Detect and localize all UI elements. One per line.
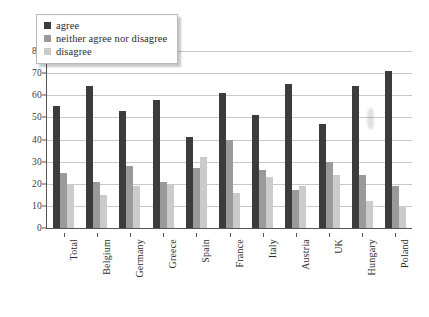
bar-group: [47, 51, 80, 228]
x-axis-tick-mark: [196, 233, 197, 237]
y-axis-tick-label: 50: [32, 112, 42, 122]
bar: [186, 137, 193, 228]
bar-group: [279, 51, 312, 228]
legend-item: neither agree nor disagree: [44, 32, 167, 45]
bar: [226, 140, 233, 229]
plot-area: [47, 51, 412, 228]
x-axis-label: Total: [68, 239, 79, 260]
bar: [53, 106, 60, 228]
bar: [67, 184, 74, 228]
bar: [126, 166, 133, 228]
y-axis-tick-label: 40: [32, 135, 42, 145]
bar: [167, 184, 174, 228]
bar: [292, 190, 299, 228]
x-axis-tick-mark: [263, 233, 264, 237]
bar: [326, 162, 333, 228]
legend-swatch-disagree: [44, 48, 51, 55]
legend-label: agree: [56, 20, 79, 31]
bar: [133, 186, 140, 228]
bar: [86, 86, 93, 228]
bar: [266, 177, 273, 228]
bar-group: [346, 51, 379, 228]
x-axis-tick-mark: [362, 233, 363, 237]
bar: [299, 186, 306, 228]
x-axis-label: Spain: [200, 239, 211, 263]
x-axis-label: France: [234, 239, 245, 267]
bar: [359, 175, 366, 228]
x-axis-tick-mark: [97, 233, 98, 237]
legend: agreeneither agree nor disagreedisagree: [36, 14, 178, 64]
bar: [200, 157, 207, 228]
bar-group: [80, 51, 113, 228]
bar: [153, 100, 160, 228]
bar-group: [213, 51, 246, 228]
y-axis-tick-label: 20: [32, 179, 42, 189]
x-axis-labels: TotalBelgiumGermanyGreeceSpainFranceItal…: [47, 233, 412, 313]
x-axis-tick-mark: [395, 233, 396, 237]
x-axis-tick-mark: [296, 233, 297, 237]
bar-group: [379, 51, 412, 228]
legend-item: disagree: [44, 45, 167, 58]
bar: [285, 84, 292, 228]
bar: [399, 206, 406, 228]
x-axis-tick-mark: [163, 233, 164, 237]
bar: [193, 168, 200, 228]
x-axis-tick-mark: [64, 233, 65, 237]
bar: [366, 201, 373, 228]
x-axis-label: Italy: [267, 239, 278, 258]
bar-group: [147, 51, 180, 228]
x-axis-label: Austria: [300, 239, 311, 270]
bar: [233, 193, 240, 228]
bar-chart: 01020304050607080 TotalBelgiumGermanyGre…: [0, 0, 429, 317]
legend-label: disagree: [56, 46, 92, 57]
bar: [392, 186, 399, 228]
x-axis-tick-mark: [230, 233, 231, 237]
legend-swatch-neither: [44, 35, 51, 42]
bar-group: [180, 51, 213, 228]
y-axis-tick-label: 70: [32, 68, 42, 78]
legend-label: neither agree nor disagree: [56, 33, 167, 44]
y-axis-tick-label: 60: [32, 90, 42, 100]
x-axis-label: Hungary: [366, 239, 377, 275]
x-axis-label: Poland: [399, 239, 410, 268]
bar: [333, 175, 340, 228]
x-axis-label: UK: [333, 239, 344, 254]
bar: [219, 93, 226, 228]
bar-group: [246, 51, 279, 228]
legend-swatch-agree: [44, 22, 51, 29]
x-axis-label: Germany: [134, 239, 145, 278]
x-axis-label: Greece: [167, 239, 178, 269]
bar: [60, 173, 67, 228]
bar: [119, 111, 126, 228]
axis-baseline: [47, 228, 412, 229]
bar: [252, 115, 259, 228]
bar: [100, 195, 107, 228]
y-axis-tick-label: 30: [32, 157, 42, 167]
bar: [352, 86, 359, 228]
bar: [160, 182, 167, 228]
x-axis-label: Belgium: [101, 239, 112, 275]
bar-group: [113, 51, 146, 228]
x-axis-tick-mark: [130, 233, 131, 237]
y-axis-tick-label: 10: [32, 201, 42, 211]
x-axis-tick-mark: [329, 233, 330, 237]
bar: [385, 71, 392, 228]
bar: [93, 182, 100, 228]
bar: [259, 170, 266, 228]
bar: [319, 124, 326, 228]
legend-item: agree: [44, 19, 167, 32]
bar-group: [312, 51, 345, 228]
